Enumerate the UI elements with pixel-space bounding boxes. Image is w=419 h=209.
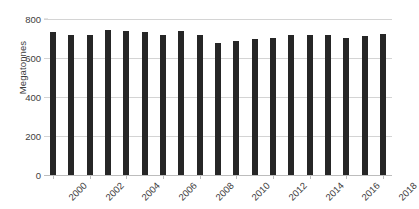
bar [215, 43, 221, 175]
bar [123, 31, 129, 175]
bar [380, 34, 386, 175]
x-tick-label: 2010 [250, 180, 273, 203]
x-tick-label: 2002 [103, 180, 126, 203]
bar [142, 32, 148, 175]
x-tick-label: 2018 [396, 180, 419, 203]
bar [343, 38, 349, 175]
plot-area [44, 19, 392, 175]
bar [160, 35, 166, 175]
bar [252, 39, 258, 176]
x-tick-label: 2016 [359, 180, 382, 203]
x-tick-label: 2006 [176, 180, 199, 203]
bar [233, 41, 239, 175]
bar [288, 35, 294, 175]
bar [87, 35, 93, 175]
bar [68, 35, 74, 175]
x-tick-label: 2008 [213, 180, 236, 203]
y-axis-tick-labels: 0200400600800 [0, 0, 44, 209]
y-tick-label: 600 [25, 53, 41, 64]
x-tick-mark [236, 176, 237, 179]
bar-series [44, 19, 392, 175]
y-tick-label: 800 [25, 14, 41, 25]
x-tick-mark [310, 176, 311, 179]
bar [50, 32, 56, 175]
y-tick-label: 200 [25, 131, 41, 142]
bar [325, 35, 331, 175]
bar [105, 30, 111, 175]
x-tick-mark [126, 176, 127, 179]
x-axis-tick-labels: 2000200220042006200820102012201420162018 [44, 176, 392, 209]
y-tick-label: 0 [36, 170, 41, 181]
x-tick-mark [273, 176, 274, 179]
x-tick-label: 2000 [66, 180, 89, 203]
bar [270, 38, 276, 175]
bar [362, 36, 368, 175]
x-tick-label: 2014 [323, 180, 346, 203]
x-tick-mark [53, 176, 54, 179]
x-tick-mark [163, 176, 164, 179]
bar [307, 35, 313, 175]
bar [197, 35, 203, 175]
x-tick-label: 2012 [286, 180, 309, 203]
x-tick-mark [346, 176, 347, 179]
x-tick-mark [90, 176, 91, 179]
y-tick-label: 400 [25, 92, 41, 103]
x-tick-label: 2004 [140, 180, 163, 203]
bar [178, 31, 184, 175]
x-tick-mark [200, 176, 201, 179]
x-tick-mark [383, 176, 384, 179]
